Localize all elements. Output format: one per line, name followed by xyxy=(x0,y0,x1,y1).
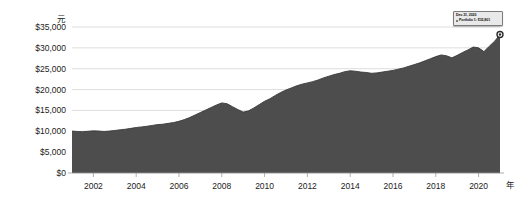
y-tick-label: $0 xyxy=(57,168,67,178)
x-tick-label: 2020 xyxy=(469,181,488,191)
x-tick-label: 2006 xyxy=(170,181,189,191)
tooltip-series-dot-icon xyxy=(456,20,458,22)
x-tick-label: 2004 xyxy=(127,181,146,191)
marker-dot[interactable] xyxy=(499,33,501,35)
area-fill xyxy=(72,35,500,173)
y-tick-label: $25,000 xyxy=(35,64,66,74)
data-point-marker[interactable] xyxy=(497,32,503,38)
x-axis-unit-label: 年 xyxy=(506,180,515,190)
x-tick-label: 2012 xyxy=(298,181,317,191)
area-series-portfolio-1 xyxy=(72,35,500,173)
x-tick-label: 2018 xyxy=(426,181,445,191)
y-tick-label: $10,000 xyxy=(35,126,66,136)
axis-ticks xyxy=(93,173,478,177)
area-chart: $35,000$30,000$25,000$20,000$15,000$10,0… xyxy=(0,0,522,204)
y-tick-label: $30,000 xyxy=(35,43,66,53)
x-tick-label: 2002 xyxy=(84,181,103,191)
y-tick-label: $20,000 xyxy=(35,85,66,95)
x-tick-label: 2008 xyxy=(212,181,231,191)
x-tick-label: 2014 xyxy=(341,181,360,191)
chart-root: $35,000$30,000$25,000$20,000$15,000$10,0… xyxy=(0,0,522,204)
y-tick-label: $5,000 xyxy=(40,147,66,157)
data-point-tooltip: Dec 31, 2020 Portfolio 1: $32,801 xyxy=(453,11,503,26)
tooltip-series-label: Portfolio 1: xyxy=(459,18,477,23)
y-axis-unit-label: 元 xyxy=(57,14,66,24)
tooltip-series-value: $32,801 xyxy=(478,18,490,23)
y-axis-tick-labels: $35,000$30,000$25,000$20,000$15,000$10,0… xyxy=(35,22,66,178)
x-axis-tick-labels: 2002200420062008201020122014201620182020 xyxy=(84,181,488,191)
x-tick-label: 2016 xyxy=(384,181,403,191)
y-tick-label: $15,000 xyxy=(35,105,66,115)
x-tick-label: 2010 xyxy=(255,181,274,191)
tooltip-series-row: Portfolio 1: $32,801 xyxy=(456,18,500,23)
